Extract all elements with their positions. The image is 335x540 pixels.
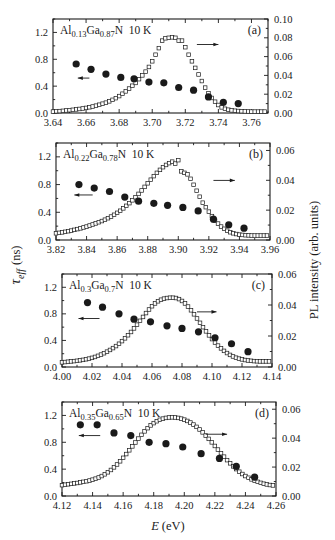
- pl-data-point: [189, 308, 193, 312]
- composition-label: Al0.35Ga0.65N 10 K: [69, 407, 161, 422]
- tau-data-point: [225, 221, 232, 228]
- pl-data-point: [207, 437, 211, 441]
- pl-data-point: [146, 181, 150, 185]
- y-right-tick-label: 0.02: [282, 462, 300, 473]
- pl-data-point: [207, 210, 211, 214]
- pl-data-point: [198, 195, 202, 199]
- y-left-tick-label: 0.0: [44, 491, 57, 502]
- pl-data-point: [200, 79, 204, 83]
- left-axis-arrow-icon: [79, 434, 100, 438]
- pl-data-point: [141, 315, 145, 319]
- x-tick-label: 3.68: [110, 117, 128, 128]
- pl-data-point: [201, 201, 205, 205]
- tau-data-point: [233, 463, 240, 470]
- x-tick-label: 4.24: [236, 500, 255, 511]
- tau-eff-series: [77, 421, 258, 481]
- right-axis-arrow-icon: [197, 310, 217, 314]
- x-tick-label: 4.22: [206, 500, 224, 511]
- y-right-tick-label: 0.04: [276, 175, 295, 186]
- tau-data-point: [179, 443, 186, 450]
- pl-data-point: [195, 317, 199, 321]
- x-tick-label: 3.86: [108, 244, 126, 255]
- x-tick-label: 4.12: [233, 371, 251, 382]
- x-tick-label: 3.88: [139, 244, 157, 255]
- pl-data-point: [213, 444, 217, 448]
- pl-data-point: [187, 53, 191, 57]
- x-tick-label: 4.16: [114, 500, 132, 511]
- x-tick-label: 3.90: [169, 244, 187, 255]
- pl-data-point: [118, 459, 122, 463]
- pl-data-point: [137, 192, 141, 196]
- tau-data-point: [210, 216, 217, 223]
- composition-label: Al0.3Ga0.7N 10 K: [69, 279, 153, 294]
- y-right-tick-label: 0.02: [278, 331, 296, 342]
- tau-data-point: [195, 328, 202, 335]
- tau-data-point: [147, 318, 154, 325]
- tau-data-point: [175, 84, 182, 91]
- pl-data-point: [184, 45, 188, 49]
- pl-intensity-series: [51, 36, 266, 114]
- pl-data-point: [186, 173, 190, 177]
- y-right-tick-label: 0.02: [274, 89, 292, 100]
- panel-letter: (a): [248, 23, 261, 37]
- pl-data-point: [204, 330, 208, 334]
- y-right-tick-label: 0.06: [276, 145, 294, 156]
- y-left-tick-label: 0.8: [44, 308, 57, 319]
- pl-data-point: [186, 305, 190, 309]
- tau-data-point: [130, 75, 137, 82]
- y-right-tick-label: 0.00: [276, 235, 294, 246]
- x-tick-label: 3.74: [209, 117, 228, 128]
- chart-panel-b: 3.823.843.863.883.903.923.943.960.00.40.…: [38, 143, 295, 255]
- x-tick-label: 3.92: [200, 244, 218, 255]
- pl-data-point: [204, 205, 208, 209]
- tau-data-point: [146, 439, 153, 446]
- tau-data-point: [110, 429, 117, 436]
- y-left-tick-label: 0.4: [38, 207, 52, 218]
- tau-data-point: [84, 299, 91, 306]
- x-axis-title: E(eV): [150, 519, 185, 533]
- y-right-tick-label: 0.10: [274, 14, 292, 25]
- pl-data-point: [127, 449, 131, 453]
- tau-data-point: [117, 74, 124, 81]
- x-tick-label: 3.76: [242, 117, 260, 128]
- pl-data-point: [201, 325, 205, 329]
- x-tick-label: 3.64: [44, 117, 63, 128]
- pl-data-point: [134, 441, 138, 445]
- tau-data-point: [102, 70, 109, 77]
- panel-letter: (d): [255, 406, 269, 420]
- pl-data-point: [138, 319, 142, 323]
- tau-data-point: [190, 87, 197, 94]
- right-axis-arrow-icon: [206, 432, 227, 436]
- pl-data-point: [210, 441, 214, 445]
- pl-data-point: [176, 158, 180, 162]
- tau-data-point: [163, 322, 170, 329]
- tau-data-point: [164, 202, 171, 209]
- tau-data-point: [160, 79, 167, 86]
- energy-symbol: E: [150, 519, 159, 533]
- pl-data-point: [154, 53, 158, 57]
- tau-data-point: [179, 204, 186, 211]
- tau-unit: (ns): [9, 246, 23, 265]
- chart-panel-a: 3.643.663.683.703.723.743.760.00.40.81.2…: [35, 14, 293, 129]
- pl-data-point: [189, 177, 193, 181]
- tau-eff-series: [75, 181, 247, 232]
- y-left-tick-label: 0.0: [38, 235, 51, 246]
- pl-data-point: [132, 327, 136, 331]
- pl-data-point: [124, 452, 128, 456]
- tau-data-point: [106, 188, 113, 195]
- y-left-tick-label: 0.8: [44, 437, 57, 448]
- right-axis-arrow-icon: [213, 179, 234, 183]
- x-tick-label: 3.72: [176, 117, 194, 128]
- pl-data-point: [190, 60, 194, 64]
- y-right-tick-label: 0.02: [276, 205, 294, 216]
- tau-data-point: [91, 184, 98, 191]
- pl-intensity-series: [60, 296, 271, 364]
- tau-data-point: [145, 79, 152, 86]
- tau-data-point: [178, 325, 185, 332]
- y-right-tick-label: 0.04: [282, 433, 301, 444]
- y-left-tick-label: 1.2: [44, 282, 57, 293]
- y-right-tick-label: 0.06: [282, 404, 300, 415]
- x-tick-label: 4.20: [175, 500, 193, 511]
- pl-data-point: [203, 86, 207, 90]
- y-right-tick-label: 0.04: [278, 300, 297, 311]
